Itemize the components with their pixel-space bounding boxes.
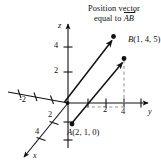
vector-ab-label: AB (124, 14, 134, 23)
x-tick-4: 4 (35, 128, 39, 136)
origin-marker (66, 101, 70, 105)
z-tick-2: 2 (54, 67, 58, 75)
x-axis (24, 103, 68, 157)
y-tick-2: 2 (103, 106, 107, 114)
position-vector-from-origin (65, 41, 113, 103)
caption-line-2: equal to AB (70, 14, 158, 23)
x-tick-2: 2 (48, 111, 52, 119)
caption-line-1: Position vector (70, 4, 158, 13)
y-tick-4: 4 (121, 108, 125, 116)
vector-diagram-figure: Position vector equal to AB z y x 2 4 2 … (0, 0, 161, 166)
y-tick-negative-2: -2 (19, 96, 26, 104)
negative-y-axis (8, 90, 68, 105)
axes-and-vectors-svg (0, 0, 161, 166)
point-a-marker (70, 122, 75, 127)
position-vector-tip-marker (111, 34, 116, 39)
y-axis (68, 99, 148, 108)
point-b-label: B(1, 4, 5) (128, 35, 160, 44)
y-axis-label: y (148, 108, 152, 116)
vector-ab (72, 63, 123, 124)
z-axis-label: z (58, 22, 61, 30)
z-tick-4: 4 (54, 42, 58, 50)
x-axis-label: x (33, 152, 37, 160)
point-a-label: A(2, 1, 0) (67, 128, 99, 137)
point-a-coords: (2, 1, 0) (72, 127, 99, 137)
point-b-marker (122, 56, 127, 61)
figure-caption: Position vector equal to AB (70, 4, 158, 24)
caption-prefix: equal to (94, 14, 124, 23)
point-b-coords: (1, 4, 5) (133, 34, 160, 44)
